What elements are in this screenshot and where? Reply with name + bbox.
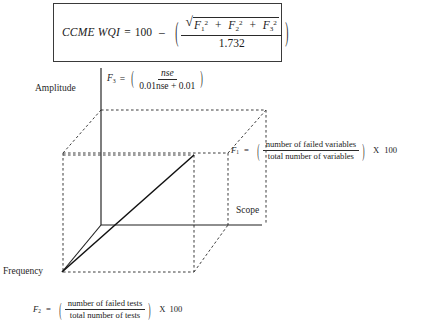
minus-sign: –: [159, 27, 165, 39]
cube-edge-top-right-diagonal: [228, 110, 266, 153]
cube-axes: [62, 68, 262, 272]
wqi-fraction: √ F12 + F22 + F32 1.732: [181, 16, 281, 49]
left-paren-icon: (: [175, 18, 178, 46]
wqi-denominator: 1.732: [216, 36, 248, 49]
radicand: F12 + F22 + F32: [193, 17, 279, 34]
wqi-numerator: √ F12 + F22 + F32: [181, 16, 281, 36]
f2-denominator: total number of tests: [67, 310, 143, 320]
f2-equation: F2 = ( number of failed tests total numb…: [33, 299, 182, 321]
f2-numerator: number of failed tests: [65, 299, 146, 310]
cube-hidden-edges: [63, 110, 266, 272]
index-vector-line: [62, 155, 194, 272]
f2-label: F2: [33, 305, 41, 315]
f3-term: F32: [263, 19, 277, 31]
axis-frequency-line: [62, 225, 101, 272]
cube-edge-top-left-diagonal: [63, 110, 101, 153]
plus-sign-2: +: [249, 19, 256, 31]
plus-sign-1: +: [215, 19, 222, 31]
f2-left-paren-icon: (: [59, 300, 61, 320]
equals-sign: =: [124, 27, 131, 39]
f2-fraction: number of failed tests total number of t…: [65, 299, 146, 321]
right-paren-icon: ): [285, 18, 288, 46]
f2-factor: 100: [169, 305, 182, 314]
f1-times-symbol: X: [373, 146, 379, 155]
f2-term: F22: [228, 19, 242, 31]
f1-right-paren-icon: ): [362, 141, 364, 161]
radical-sign-icon: √: [185, 15, 192, 29]
ccme-wqi-formula-box: CCME WQI = 100 – ( √ F12 + F22 + F32: [53, 3, 282, 62]
f2-times-symbol: X: [159, 305, 165, 314]
index-vector: [62, 155, 194, 272]
f1-term: F12: [194, 19, 208, 31]
wqi-index-cube-diagram: [0, 55, 300, 295]
cube-edge-bottom-right-diagonal: [194, 225, 228, 272]
constant-100: 100: [135, 27, 152, 39]
f2-equals-sign: =: [46, 305, 51, 314]
f2-right-paren-icon: ): [149, 300, 151, 320]
figure-canvas: CCME WQI = 100 – ( √ F12 + F22 + F32: [0, 0, 422, 336]
f1-factor: 100: [384, 146, 397, 155]
wqi-label: CCME WQI: [62, 27, 120, 39]
square-root-group: √ F12 + F22 + F32: [184, 16, 278, 34]
ccme-wqi-equation: CCME WQI = 100 – ( √ F12 + F22 + F32: [62, 4, 292, 61]
